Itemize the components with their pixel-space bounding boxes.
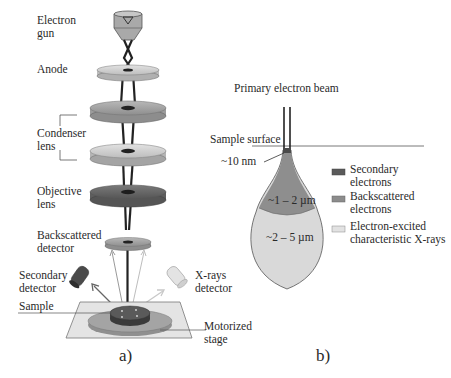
label-line: Motorized	[204, 320, 252, 333]
motorized-stage	[66, 302, 192, 338]
legend-secondary: Secondary electrons	[350, 163, 399, 189]
label-sample: Sample	[19, 300, 54, 313]
backscattered-detector	[105, 238, 151, 251]
caption-a: a)	[119, 346, 132, 366]
label-objective-lens: Objective lens	[37, 185, 82, 211]
legend-backscattered: Backscattered electrons	[350, 190, 415, 216]
legend-swatch-backscattered	[332, 196, 345, 202]
label-line: lens	[37, 198, 82, 211]
condenser-lens-1	[90, 101, 166, 123]
legend-line: electrons	[350, 176, 399, 189]
caption-b: b)	[316, 346, 330, 366]
electron-beam-icon	[121, 40, 135, 322]
legend-line: Backscattered	[350, 190, 415, 203]
label-inner-region: ~1 – 2 µm	[268, 194, 316, 207]
label-line: detector	[195, 282, 232, 295]
legend-xrays: Electron-excited characteristic X-rays	[350, 220, 445, 246]
legend-swatch-secondary	[332, 169, 345, 175]
label-line: detector	[19, 282, 68, 295]
objective-lens	[90, 185, 166, 207]
label-line: stage	[204, 333, 252, 346]
label-line: X-rays	[195, 269, 232, 282]
label-line: gun	[37, 27, 76, 40]
label-primary-beam: Primary electron beam	[234, 82, 339, 94]
label-line: Backscattered	[37, 229, 102, 242]
label-outer-region: ~2 – 5 µm	[266, 231, 314, 244]
label-motorized-stage: Motorized stage	[204, 320, 252, 346]
label-condenser-lens: Condenser lens	[37, 127, 86, 153]
label-electron-gun: Electron gun	[37, 14, 76, 40]
label-depth: ~10 nm	[221, 155, 256, 168]
label-backscattered-detector: Backscattered detector	[37, 229, 102, 255]
label-line: Secondary	[19, 269, 68, 282]
label-line: Electron	[37, 14, 76, 27]
label-line: lens	[37, 140, 86, 153]
legend-line: electrons	[350, 203, 415, 216]
legend-line: Electron-excited	[350, 220, 445, 233]
condenser-lens-2	[90, 144, 166, 166]
electron-gun-icon	[114, 11, 142, 40]
label-line: Condenser	[37, 127, 86, 140]
legend-line: characteristic X-rays	[350, 233, 445, 246]
legend-line: Secondary	[350, 163, 399, 176]
label-secondary-detector: Secondary detector	[19, 269, 68, 295]
label-sample-surface: Sample surface	[210, 133, 281, 146]
label-line: detector	[37, 242, 102, 255]
label-xrays-detector: X-rays detector	[195, 269, 232, 295]
label-anode: Anode	[37, 63, 68, 76]
secondary-detector-icon	[68, 264, 91, 289]
anode-disc	[97, 65, 159, 81]
legend-swatch-xrays	[332, 226, 345, 232]
xray-detector-icon	[165, 264, 189, 289]
label-line: Objective	[37, 185, 82, 198]
